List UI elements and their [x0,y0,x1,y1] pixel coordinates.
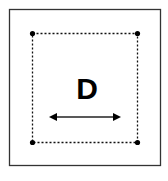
corner-dot-bottom-left [30,140,35,145]
corner-dot-top-right [135,31,140,36]
diagram-canvas: D [0,0,168,181]
corner-dot-bottom-right [135,140,140,145]
corner-dot-top-left [30,31,35,36]
dimension-label: D [76,72,98,105]
